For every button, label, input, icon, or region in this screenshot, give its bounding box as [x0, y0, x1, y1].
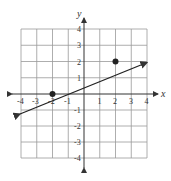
y-axis-label: y	[76, 8, 82, 19]
y-tick: -4	[74, 154, 81, 163]
y-tick: -2	[74, 122, 81, 131]
y-tick: 1	[77, 74, 81, 83]
x-tick-labels: -4 -3 -2 -1 1 2 3 4	[17, 97, 149, 106]
x-tick: -4	[17, 97, 24, 106]
x-tick: -1	[64, 97, 71, 106]
y-tick: 2	[77, 58, 81, 67]
y-tick: 4	[77, 25, 81, 34]
x-tick: 4	[145, 97, 149, 106]
x-axis-label: x	[160, 88, 166, 99]
coordinate-plane: x y -4 -3 -2 -1 1 2 3 4 4 3 2 1 -1 -2 -3…	[0, 0, 171, 181]
point-neg2-0	[50, 91, 56, 97]
axes	[12, 18, 158, 168]
y-tick: -1	[74, 106, 81, 115]
x-tick: 1	[98, 97, 102, 106]
x-tick: 3	[129, 97, 133, 106]
x-tick: -3	[32, 97, 39, 106]
y-tick: -3	[74, 138, 81, 147]
x-tick: 2	[113, 97, 117, 106]
point-2-2	[113, 59, 119, 65]
y-tick: 3	[77, 41, 81, 50]
